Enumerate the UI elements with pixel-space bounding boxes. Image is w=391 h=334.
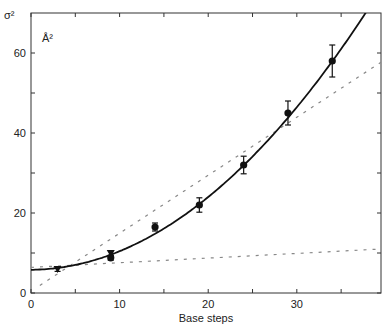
x-tick-label: 30 xyxy=(291,298,303,310)
data-point-circle xyxy=(196,201,203,208)
y-tick-label: 40 xyxy=(14,127,26,139)
x-tick-label: 10 xyxy=(113,298,125,310)
data-point-circle xyxy=(240,161,247,168)
unit-label: Å² xyxy=(42,32,53,44)
data-point-circle xyxy=(151,223,158,230)
dashed-fit-line xyxy=(31,249,381,267)
y-axis-title: σ² xyxy=(4,9,15,21)
y-tick-label: 0 xyxy=(20,287,26,299)
x-tick-label: 20 xyxy=(202,298,214,310)
chart: 01020300204060Base stepsσ²Å² Base steps xyxy=(0,0,391,334)
data-point-circle xyxy=(284,109,291,116)
y-tick-label: 60 xyxy=(14,47,26,59)
plot-frame xyxy=(31,13,381,293)
chart-svg: 01020300204060Base stepsσ²Å² xyxy=(0,0,391,334)
x-axis-title: Base steps xyxy=(179,312,234,324)
x-tick-label: 0 xyxy=(28,298,34,310)
quadratic-fit-curve xyxy=(31,0,381,270)
data-point-circle xyxy=(107,254,114,261)
y-tick-label: 20 xyxy=(14,207,26,219)
data-point-circle xyxy=(329,57,336,64)
